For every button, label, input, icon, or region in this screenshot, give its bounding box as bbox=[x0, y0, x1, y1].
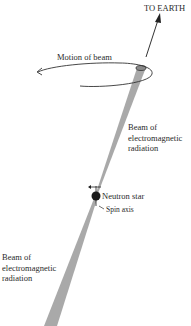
to-earth-arrowhead-icon bbox=[155, 13, 161, 23]
motion-of-beam-label: Motion of beam bbox=[57, 52, 112, 62]
lower-beam-label: Beam of electromagnetic radiation bbox=[2, 252, 56, 284]
neutron-star bbox=[92, 192, 101, 201]
spin-axis-leader bbox=[99, 206, 104, 209]
upper-beam-line-1: Beam of bbox=[128, 122, 182, 133]
upper-beam-line-3: radiation bbox=[128, 143, 182, 154]
to-earth-label: TO EARTH bbox=[144, 3, 185, 13]
lower-beam-line-2: electromagnetic bbox=[2, 263, 56, 274]
spin-arrowhead-icon bbox=[88, 185, 91, 189]
lower-beam-line-1: Beam of bbox=[2, 252, 56, 263]
neutron-star-label: Neutron star bbox=[102, 191, 144, 201]
to-earth-arrow-icon bbox=[146, 20, 158, 57]
lower-beam-line-3: radiation bbox=[2, 273, 56, 284]
spin-axis-label: Spin axis bbox=[106, 205, 134, 215]
upper-beam-label: Beam of electromagnetic radiation bbox=[128, 122, 182, 154]
upper-beam-line-2: electromagnetic bbox=[128, 133, 182, 144]
